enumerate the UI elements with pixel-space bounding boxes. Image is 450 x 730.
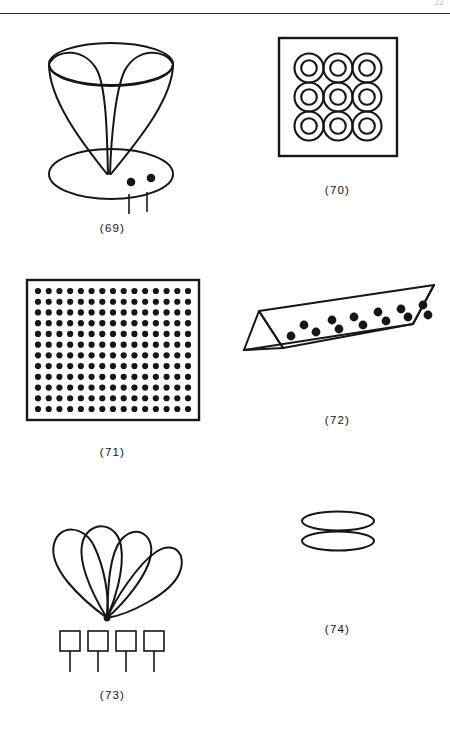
figure-71-dot (88, 363, 94, 369)
figure-caption-73: (73) (0, 689, 225, 701)
figure-71-dot (109, 384, 115, 390)
figure-71-dot (88, 342, 94, 348)
figure-71-dot (99, 342, 105, 348)
figure-71-dot (34, 299, 40, 305)
figure-cell-74: (74) (225, 502, 450, 635)
figure-71-dot (56, 374, 62, 380)
figure-71-dot (142, 352, 148, 358)
figure-71-dot (88, 320, 94, 326)
figure-71-dot (77, 320, 83, 326)
petal-apex (103, 615, 110, 622)
figure-71-dot (163, 395, 169, 401)
figure-71-dot (174, 342, 180, 348)
figure-71-dot (174, 299, 180, 305)
figure-grid: (69) (0, 22, 450, 730)
figure-71-dot (45, 331, 51, 337)
figure-71-dot (34, 288, 40, 294)
figure-caption-71: (71) (0, 446, 225, 458)
figure-71-dot (45, 320, 51, 326)
figure-71-dot (99, 320, 105, 326)
figure-71-dot (56, 395, 62, 401)
figure-71-dot (56, 288, 62, 294)
figure-71-dot (184, 320, 190, 326)
figure-71-dot (142, 395, 148, 401)
figure-71-dot (152, 406, 158, 412)
figure-71-dot (88, 352, 94, 358)
figure-71-dot (67, 299, 73, 305)
figure-71-dot (56, 309, 62, 315)
figure-71-dot (109, 352, 115, 358)
figure-71-dot (152, 288, 158, 294)
figure-71-dot (152, 331, 158, 337)
figure-71-dot (142, 342, 148, 348)
figure-71-dot (131, 320, 137, 326)
figure-71-dot (109, 363, 115, 369)
figure-71-dot (152, 342, 158, 348)
figure-70-artwork (225, 22, 450, 172)
figure-71-dot (99, 299, 105, 305)
figure-71-dot (131, 374, 137, 380)
figure-cell-72: (72) (225, 272, 450, 426)
figure-71-dot (88, 309, 94, 315)
figure-71-dot (131, 406, 137, 412)
figure-71-dot (142, 363, 148, 369)
figure-71-dot (109, 374, 115, 380)
square-with-nine-concentric-rings-icon (268, 22, 408, 172)
figure-71-dot (184, 406, 190, 412)
figure-71-dot (163, 384, 169, 390)
figure-71-dot (77, 374, 83, 380)
figure-71-dot (45, 374, 51, 380)
figure-71-dot (45, 363, 51, 369)
figure-71-dot (131, 309, 137, 315)
figure-71-artwork (0, 272, 225, 432)
figure-71-dot (142, 406, 148, 412)
figure-71-dot (152, 395, 158, 401)
figure-71-dot (45, 352, 51, 358)
figure-71-dot (77, 288, 83, 294)
figure-71-dot (120, 342, 126, 348)
figure-71-dot (34, 374, 40, 380)
figure-71-dot (184, 363, 190, 369)
figure-71-dot (88, 395, 94, 401)
figure-71-dot (34, 384, 40, 390)
figure-71-dot (142, 331, 148, 337)
figure-caption-69: (69) (0, 222, 225, 234)
figure-71-dot (163, 406, 169, 412)
figure-71-dot (120, 309, 126, 315)
figure-71-dot (34, 395, 40, 401)
figure-71-dot (163, 288, 169, 294)
figure-71-dot (152, 320, 158, 326)
figure-71-dot (56, 320, 62, 326)
figure-71-dot (88, 331, 94, 337)
figure-71-dot (67, 384, 73, 390)
figure-71-dot (163, 363, 169, 369)
figure-71-dot (45, 299, 51, 305)
figure-71-dot (184, 352, 190, 358)
figure-71-dot (34, 342, 40, 348)
figure-71-dot (163, 309, 169, 315)
figure-71-dot (184, 342, 190, 348)
figure-72-artwork (225, 272, 450, 392)
figure-71-dot (67, 331, 73, 337)
figure-71-dot (184, 384, 190, 390)
figure-71-dot (174, 309, 180, 315)
figure-71-dot (77, 342, 83, 348)
figure-71-dot (34, 363, 40, 369)
figure-71-dot (131, 395, 137, 401)
figure-71-dot (163, 352, 169, 358)
figure-71-dot (174, 288, 180, 294)
figure-71-dot (45, 288, 51, 294)
figure-71-dot (120, 288, 126, 294)
figure-71-dot (131, 342, 137, 348)
figure-71-dot (120, 352, 126, 358)
figure-71-dot (77, 309, 83, 315)
figure-71-dot (120, 331, 126, 337)
figure-71-dot (109, 342, 115, 348)
figure-71-dot (45, 309, 51, 315)
cone-over-ellipse-with-dots-icon (23, 22, 203, 212)
figure-71-dot (131, 331, 137, 337)
figure-69-dot (146, 174, 155, 183)
figure-71-dot (120, 384, 126, 390)
figure-71-dot (77, 406, 83, 412)
figure-71-dot (120, 395, 126, 401)
